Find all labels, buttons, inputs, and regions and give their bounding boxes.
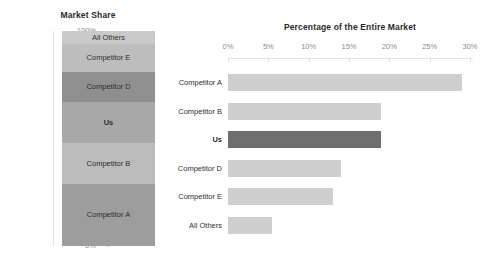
percentage-x-tick-label: 20% [382,42,397,51]
bar-row[interactable]: Competitor E [176,188,496,205]
percentage-x-tick-label: 25% [422,42,437,51]
market-share-y-tick: 0% [53,246,106,247]
bar-row-label: All Others [176,217,222,234]
stacked-segment-label: Competitor B [87,159,131,168]
bar-rect[interactable] [228,74,462,91]
bar-rect[interactable] [228,217,272,234]
percentage-x-axis-line [228,58,473,59]
stacked-segment[interactable]: All Others [62,31,155,44]
stacked-segment-label: Competitor A [87,210,130,219]
bar-row-label: Competitor D [176,160,222,177]
bar-row[interactable]: Us [176,131,496,148]
bar-row[interactable]: Competitor B [176,103,496,120]
percentage-x-tick-label: 5% [263,42,274,51]
bar-row-label: Competitor E [176,188,222,205]
market-share-chart-title: Market Share [0,10,176,20]
market-share-chart: Market Share 0%20%40%60%80%100% All Othe… [0,0,176,261]
stacked-segment-label: All Others [92,33,125,42]
bar-rect[interactable] [228,160,341,177]
bar-row-label: Us [176,131,222,148]
market-share-y-tick-mark [106,246,109,247]
stacked-segment-label: Competitor E [87,53,131,62]
bar-rect[interactable] [228,103,381,120]
bar-row-label: Competitor B [176,103,222,120]
percentage-x-tick-label: 30% [462,42,477,51]
percentage-x-tick-label: 0% [223,42,234,51]
bar-row[interactable]: Competitor D [176,160,496,177]
stacked-segment[interactable]: Us [62,102,155,143]
bar-rect[interactable] [228,188,333,205]
stacked-segment[interactable]: Competitor E [62,44,155,72]
stacked-segment[interactable]: Competitor A [62,184,155,246]
percentage-of-market-chart: Percentage of the Entire Market 0%5%10%1… [176,0,496,261]
percentage-of-market-chart-title: Percentage of the Entire Market [228,22,472,32]
stacked-segment[interactable]: Competitor B [62,143,155,184]
stacked-column: All OthersCompetitor ECompetitor DUsComp… [62,31,155,246]
percentage-x-tick-mark [268,59,269,62]
percentage-x-tick-mark [309,59,310,62]
percentage-x-tick-label: 10% [301,42,316,51]
stacked-segment[interactable]: Competitor D [62,72,155,102]
percentage-x-tick-mark [470,59,471,62]
bar-row-label: Competitor A [176,74,222,91]
percentage-x-tick-mark [389,59,390,62]
bar-row[interactable]: Competitor A [176,74,496,91]
stacked-segment-label: Us [104,118,114,127]
percentage-x-tick-mark [228,59,229,62]
bar-rect[interactable] [228,131,381,148]
bar-row[interactable]: All Others [176,217,496,234]
stacked-segment-label: Competitor D [86,82,130,91]
percentage-x-tick-mark [430,59,431,62]
percentage-x-tick-mark [349,59,350,62]
percentage-x-tick-label: 15% [341,42,356,51]
